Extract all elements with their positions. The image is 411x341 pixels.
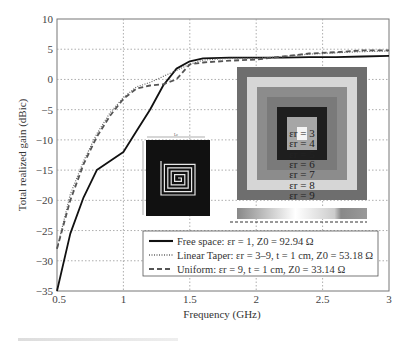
y-tick-label: −15 xyxy=(36,164,54,176)
y-tick-label: −20 xyxy=(36,194,54,206)
x-tick-label: 3 xyxy=(386,293,392,305)
legend-item-solid: Free space: εr = 1, Z0 = 92.94 Ω xyxy=(177,236,314,247)
y-tick-label: −30 xyxy=(36,255,54,267)
y-tick-label: −5 xyxy=(41,104,53,116)
x-tick-label: 1.5 xyxy=(183,293,197,305)
legend: Free space: εr = 1, Z0 = 92.94 ΩLinear T… xyxy=(143,231,378,276)
y-tick-label: 5 xyxy=(48,43,54,55)
legend-item-dashed: Uniform: εr = 9, t = 1 cm, Z0 = 33.14 Ω xyxy=(177,264,345,275)
spiral-antenna-inset: Lc xyxy=(143,132,210,216)
y-tick-label: 10 xyxy=(42,13,54,25)
y-tick-label: 0 xyxy=(48,73,54,85)
legend-item-dotted: Linear Taper: εr = 3–9, t = 1 cm, Z0 = 5… xyxy=(177,250,373,261)
permittivity-label: εr = 9 xyxy=(289,189,315,201)
gain-vs-frequency-chart: 1050−5−10−15−20−25−30−350.511.522.53Freq… xyxy=(0,0,411,341)
y-tick-label: −35 xyxy=(36,285,54,297)
y-axis-label: Total realized gain (dBic) xyxy=(16,98,29,211)
x-tick-label: 2 xyxy=(253,293,259,305)
y-tick-label: −25 xyxy=(36,225,54,237)
dielectric-layers-inset: εr = 3εr = 4εr = 5εr = 6εr = 7εr = 8εr =… xyxy=(237,67,367,201)
x-tick-label: 0.5 xyxy=(52,293,66,305)
permittivity-colorbar xyxy=(237,208,367,219)
y-tick-label: −10 xyxy=(36,134,54,146)
svg-text:Lc: Lc xyxy=(174,132,178,137)
x-axis-label: Frequency (GHz) xyxy=(183,308,261,321)
x-tick-label: 1 xyxy=(121,293,127,305)
x-tick-label: 2.5 xyxy=(316,293,330,305)
